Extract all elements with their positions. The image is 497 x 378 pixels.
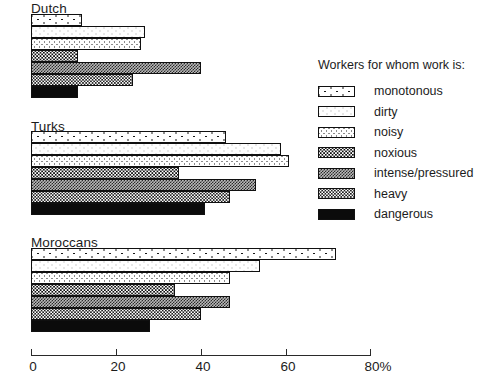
bar-moroccans-intense-pressured	[31, 296, 230, 308]
bar-dutch-monotonous	[31, 14, 82, 26]
legend-swatch-dirty-icon	[318, 106, 355, 117]
x-axis-tick-20	[116, 349, 117, 355]
legend-item-monotonous: monotonous	[318, 81, 493, 102]
bar-moroccans-dangerous	[31, 320, 150, 332]
legend-item-noxious: noxious	[318, 143, 493, 164]
legend-title: Workers for whom work is:	[318, 58, 493, 72]
legend-label: dangerous	[374, 207, 433, 221]
legend-items: monotonousdirtynoisynoxiousintense/press…	[318, 81, 493, 225]
x-axis-label-40: 40	[195, 359, 210, 374]
bar-dutch-dangerous	[31, 86, 78, 98]
legend-swatch-monotonous-icon	[318, 86, 355, 97]
legend-label: dirty	[374, 105, 398, 119]
bar-moroccans-monotonous	[31, 248, 336, 260]
bar-dutch-intense-pressured	[31, 62, 201, 74]
x-axis-tick-60	[286, 349, 287, 355]
bar-turks-monotonous	[31, 131, 226, 143]
bar-turks-dirty	[31, 143, 281, 155]
bar-turks-dangerous	[31, 203, 205, 215]
bar-dutch-noxious	[31, 50, 78, 62]
x-axis-line	[31, 355, 371, 356]
legend-item-dirty: dirty	[318, 102, 493, 123]
legend-label: heavy	[374, 187, 407, 201]
bar-turks-noxious	[31, 167, 179, 179]
legend-swatch-noxious-icon	[318, 147, 355, 158]
x-axis-label-80: 80%	[364, 359, 391, 374]
legend-item-noisy: noisy	[318, 122, 493, 143]
bar-dutch-noisy	[31, 38, 141, 50]
x-axis-tick-0	[31, 349, 32, 355]
x-axis-label-20: 20	[110, 359, 125, 374]
bar-moroccans-heavy	[31, 308, 201, 320]
bar-chart: Dutch Turks Moroccans 0 20 40 60 80% Wor…	[0, 0, 497, 378]
bar-turks-heavy	[31, 191, 230, 203]
bar-moroccans-dirty	[31, 260, 260, 272]
x-axis-tick-40	[201, 349, 202, 355]
legend-swatch-intense-pressured-icon	[318, 168, 355, 179]
bar-turks-intense-pressured	[31, 179, 256, 191]
x-axis-tick-80	[370, 349, 371, 355]
legend-label: intense/pressured	[374, 166, 473, 180]
legend-item-intense-pressured: intense/pressured	[318, 163, 493, 184]
legend-label: monotonous	[374, 84, 443, 98]
legend-label: noisy	[374, 125, 403, 139]
legend-item-dangerous: dangerous	[318, 204, 493, 225]
legend-swatch-dangerous-icon	[318, 209, 355, 220]
legend-swatch-noisy-icon	[318, 127, 355, 138]
x-axis-label-0: 0	[29, 359, 37, 374]
bar-dutch-heavy	[31, 74, 133, 86]
bar-moroccans-noxious	[31, 284, 175, 296]
x-axis-label-60: 60	[280, 359, 295, 374]
legend: Workers for whom work is: monotonousdirt…	[318, 58, 493, 225]
bar-turks-noisy	[31, 155, 289, 167]
legend-label: noxious	[374, 146, 417, 160]
bar-moroccans-noisy	[31, 272, 230, 284]
legend-swatch-heavy-icon	[318, 188, 355, 199]
bar-dutch-dirty	[31, 26, 145, 38]
legend-item-heavy: heavy	[318, 184, 493, 205]
